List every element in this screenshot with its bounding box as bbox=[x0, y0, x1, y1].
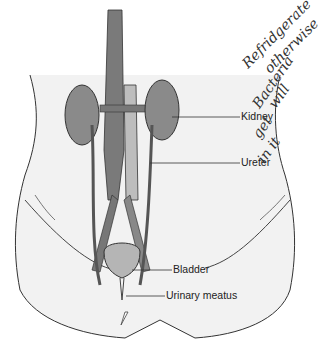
right-kidney bbox=[145, 80, 179, 140]
vena-cava bbox=[124, 85, 138, 200]
bladder-label: Bladder bbox=[173, 263, 209, 275]
urinary-system-diagram: Kidney Ureter Bladder Urinary meatus Ref… bbox=[0, 0, 321, 344]
urinary-meatus-label: Urinary meatus bbox=[166, 289, 237, 301]
